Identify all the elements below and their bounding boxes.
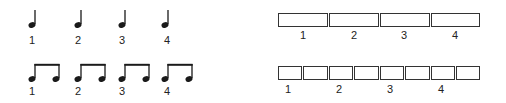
eighth-label-3: 3 <box>116 86 128 97</box>
quarter-note-3-icon <box>118 10 127 29</box>
eighth-box-7 <box>431 66 455 80</box>
eighth-pair-2-icon <box>74 64 107 83</box>
quarter-note-4-icon <box>161 10 170 29</box>
quarter-box-1 <box>278 13 328 27</box>
quarter-label-4: 4 <box>161 35 173 46</box>
eighth-box-2 <box>303 66 328 80</box>
eighth-box-label-2: 2 <box>333 84 345 95</box>
eighth-box-label-3: 3 <box>384 84 396 95</box>
quarter-box-label-3: 3 <box>398 30 410 41</box>
eighth-box-3 <box>329 66 353 80</box>
quarter-label-3: 3 <box>116 35 128 46</box>
eighth-box-6 <box>405 66 430 80</box>
quarter-box-3 <box>380 13 430 27</box>
quarter-box-2 <box>329 13 379 27</box>
eighth-box-1 <box>278 66 302 80</box>
eighth-label-1: 1 <box>26 86 38 97</box>
eighth-pair-3-icon <box>118 64 151 83</box>
quarter-label-2: 2 <box>72 35 84 46</box>
quarter-box-label-1: 1 <box>297 30 309 41</box>
quarter-box-label-2: 2 <box>348 30 360 41</box>
eighth-pair-4-icon <box>161 64 194 83</box>
eighth-box-label-1: 1 <box>282 84 294 95</box>
eighth-box-8 <box>456 66 480 80</box>
eighth-label-2: 2 <box>72 86 84 97</box>
eighth-box-label-4: 4 <box>435 84 447 95</box>
quarter-label-1: 1 <box>26 35 38 46</box>
eighth-box-5 <box>380 66 404 80</box>
quarter-note-1-icon <box>28 10 37 29</box>
quarter-note-2-icon <box>74 10 83 29</box>
eighth-label-4: 4 <box>161 86 173 97</box>
quarter-box-label-4: 4 <box>449 30 461 41</box>
eighth-box-4 <box>354 66 379 80</box>
eighth-pair-1-icon <box>28 64 61 83</box>
quarter-box-4 <box>431 13 480 27</box>
quarter-box-row <box>278 13 480 27</box>
eighth-box-row <box>278 66 480 80</box>
